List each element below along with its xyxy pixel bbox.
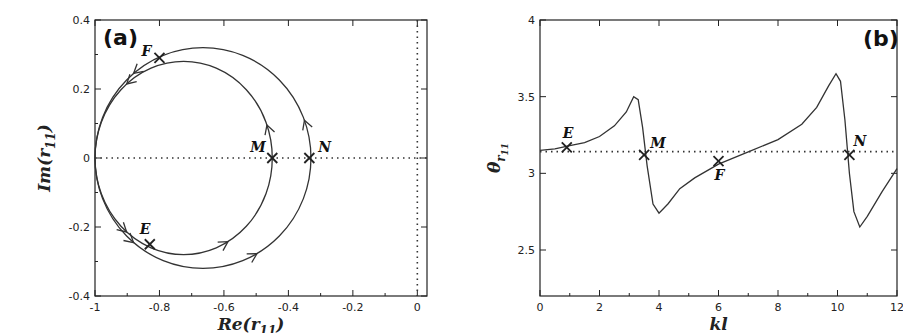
- point-marker-m: [639, 150, 649, 160]
- point-label-f: F: [140, 43, 152, 59]
- y-axis-label: θr11: [484, 143, 510, 173]
- x-tick-label: 0: [537, 301, 544, 314]
- y-tick-label: 0.4: [73, 14, 91, 27]
- panel-label-a: (a): [103, 25, 138, 50]
- x-tick-label: 2: [596, 301, 603, 314]
- point-label-n: N: [852, 133, 867, 149]
- point-label-m: M: [649, 135, 666, 151]
- panel-a: -1-0.8-0.6-0.4-0.20-0.4-0.200.20.4FEMN(a…: [34, 14, 427, 333]
- x-tick-label: 0: [414, 301, 421, 314]
- x-axis-label: kl: [709, 314, 728, 333]
- x-tick-label: 12: [890, 301, 903, 314]
- x-axis-label: Re(r11): [217, 314, 285, 333]
- plot-frame: [540, 20, 897, 296]
- y-axis-label: Im(r11): [34, 124, 58, 193]
- point-label-f: F: [714, 167, 726, 183]
- y-tick-label: 0: [83, 152, 90, 165]
- theta-curve: [540, 74, 897, 227]
- y-tick-label: 0.2: [73, 83, 91, 96]
- y-tick-label: 3: [528, 167, 535, 180]
- point-label-m: M: [249, 139, 266, 155]
- x-tick-label: 4: [656, 301, 663, 314]
- x-tick-label: -1: [90, 301, 101, 314]
- x-tick-label: -0.2: [342, 301, 363, 314]
- y-tick-label: 2.5: [518, 244, 536, 257]
- x-tick-label: -0.4: [278, 301, 299, 314]
- x-tick-label: 8: [775, 301, 782, 314]
- x-tick-label: -0.6: [213, 301, 234, 314]
- point-marker-n: [304, 153, 314, 163]
- x-tick-label: 6: [715, 301, 722, 314]
- x-tick-label: -0.8: [149, 301, 170, 314]
- y-tick-label: 3.5: [518, 91, 536, 104]
- point-label-n: N: [317, 139, 332, 155]
- x-tick-label: 10: [831, 301, 845, 314]
- point-label-e: E: [139, 221, 151, 237]
- panel-b: 0246810122.533.54EMFN(b)klθr11: [484, 14, 903, 333]
- y-tick-label: -0.4: [69, 290, 90, 303]
- y-tick-label: 4: [528, 14, 535, 27]
- point-label-e: E: [562, 125, 574, 141]
- y-tick-label: -0.2: [69, 221, 90, 234]
- panel-label-b: (b): [863, 26, 899, 51]
- figure: -1-0.8-0.6-0.4-0.20-0.4-0.200.20.4FEMN(a…: [0, 0, 903, 333]
